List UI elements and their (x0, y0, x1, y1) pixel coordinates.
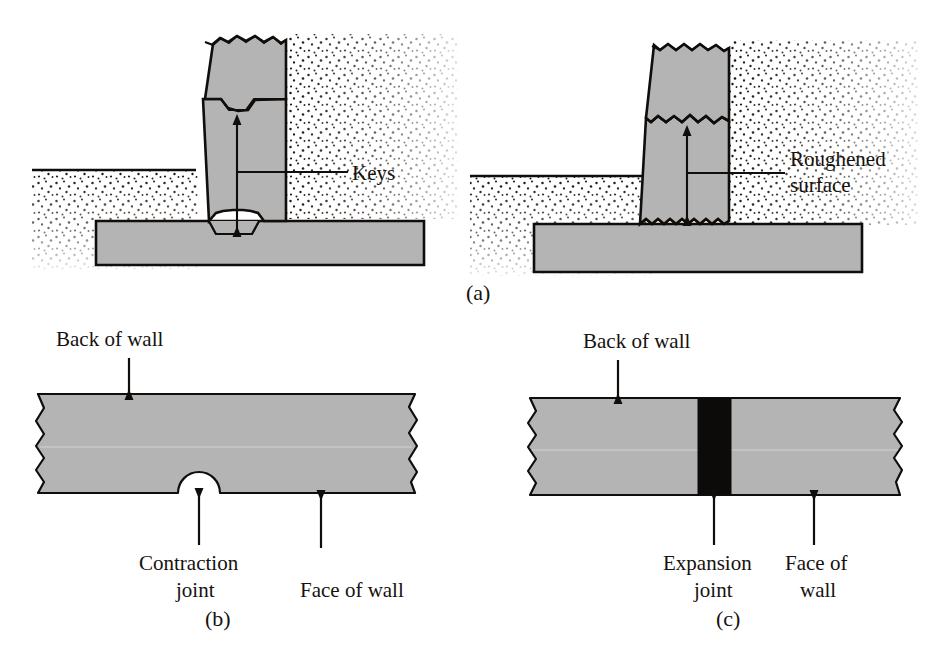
wall-footing (534, 224, 862, 272)
label-keys: Keys (352, 161, 395, 185)
panel-b: Back of wall Contraction joint Face of w… (36, 327, 417, 631)
label-back-of-wall: Back of wall (583, 329, 690, 353)
wall-footing (96, 221, 424, 265)
figure-root: Keys Roughened sur (0, 0, 928, 649)
label-contraction-joint-line1: Contraction (139, 551, 239, 575)
label-expansion-joint-line2: joint (693, 578, 733, 602)
label-roughened-surface-line1: Roughened (790, 147, 886, 171)
label-back-of-wall: Back of wall (56, 327, 163, 351)
retaining-wall-joints-figure: Keys Roughened sur (0, 0, 928, 649)
label-roughened-surface-line2: surface (790, 173, 851, 197)
label-expansion-joint-line1: Expansion (663, 551, 752, 575)
label-face-of-wall: Face of wall (300, 578, 404, 602)
wall-plan-slab (36, 394, 417, 493)
panel-a-right: Roughened surface (a) (466, 40, 919, 305)
backfill-soil-right (729, 40, 919, 225)
expansion-joint-filler (698, 399, 731, 494)
backfill-soil-right (283, 34, 458, 219)
label-contraction-joint-line2: joint (175, 578, 215, 602)
panel-c: Back of wall Expansion joint Face of wal… (528, 329, 902, 631)
wall-stem-upper (646, 44, 729, 123)
label-face-of-wall-line2: wall (800, 578, 836, 602)
shear-key-bottom-fill (209, 221, 259, 234)
wall-stem-lower (640, 115, 729, 224)
panel-letter-c: (c) (716, 606, 740, 631)
label-face-of-wall-line1: Face of (785, 551, 847, 575)
panel-letter-b: (b) (205, 606, 231, 631)
wall-stem-lower (203, 99, 286, 221)
panel-a-left: Keys (32, 34, 458, 270)
panel-letter-a: (a) (466, 280, 490, 305)
